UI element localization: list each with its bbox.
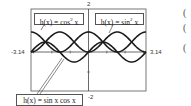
label-cos-tail: x bbox=[73, 18, 79, 27]
label-sin-tail: x bbox=[133, 18, 139, 27]
label-sin-squared: h(x) = sin2 x bbox=[95, 13, 144, 25]
leader-sin-cos-a bbox=[37, 58, 62, 94]
label-cos-squared: h(x) = cos2 x bbox=[34, 13, 84, 25]
y-min-label: -2 bbox=[88, 94, 93, 100]
y-max-label: 2 bbox=[87, 1, 90, 7]
x-min-label: -3.14 bbox=[11, 49, 25, 55]
side-paren-2: ( bbox=[183, 23, 186, 33]
label-sin-cos: h(x) = sin x cos x bbox=[16, 94, 83, 106]
label-cos-main: h(x) = cos bbox=[40, 18, 70, 27]
label-sin-main: h(x) = sin bbox=[101, 18, 130, 27]
label-sincos-main: h(x) = sin x cos x bbox=[23, 96, 75, 105]
leader-sin-cos-b bbox=[40, 59, 64, 94]
x-max-label: 3.14 bbox=[150, 49, 162, 55]
side-paren-3: ( bbox=[183, 43, 186, 53]
side-paren-1: ( bbox=[183, 8, 186, 18]
graph-figure: 2 -3.14 3.14 -2 h(x) = cos2 x h(x) = sin… bbox=[0, 0, 191, 106]
